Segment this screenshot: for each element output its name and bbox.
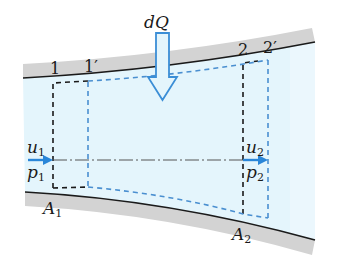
duct-diagram: dQ 1 1′ 2 2′ u1 p1 u2 p2 A1 A2 (0, 0, 340, 271)
section-2-label: 2 (238, 40, 248, 59)
heat-label: dQ (144, 12, 169, 32)
section-1-label: 1 (50, 59, 60, 78)
section-1-prime-label: 1′ (84, 57, 98, 76)
section-2-prime-label: 2′ (263, 38, 277, 57)
